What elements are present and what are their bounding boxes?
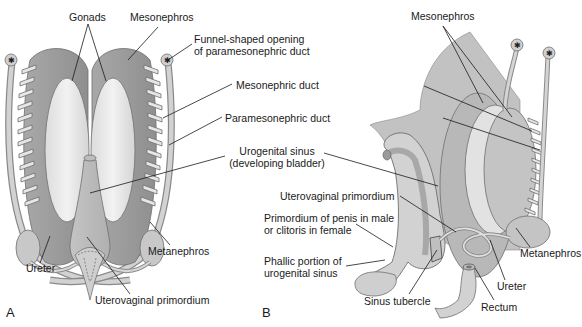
panel-label-b: B (262, 305, 271, 320)
funnel-opening-b2: ✱ (543, 47, 555, 59)
label-phallic-line2: urogenital sinus (264, 267, 338, 279)
svg-text:✱: ✱ (164, 56, 171, 65)
label-penis-primordium-line2: or clitoris in female (264, 224, 352, 236)
label-uterovaginal-a: Uterovaginal primordium (95, 294, 209, 306)
panel-label-a: A (6, 305, 15, 320)
metanephros-b (506, 216, 550, 248)
svg-text:✱: ✱ (514, 41, 521, 50)
label-sinus-tubercle: Sinus tubercle (364, 295, 431, 307)
funnel-opening-left: ✱ (5, 54, 17, 66)
funnel-opening-right: ✱ (161, 54, 173, 66)
label-funnel-line2: of paramesonephric duct (194, 45, 310, 57)
label-metanephros-a: Metanephros (148, 245, 209, 257)
label-metanephros-b: Metanephros (520, 247, 581, 259)
label-urogenital-sinus-line2: (developing bladder) (228, 157, 326, 169)
label-ureter-a: Ureter (26, 262, 55, 274)
metanephros-left (16, 230, 40, 266)
label-rectum: Rectum (481, 301, 517, 313)
label-funnel-line1: Funnel-shaped opening (194, 33, 304, 45)
label-mesonephros-b: Mesonephros (411, 10, 475, 22)
label-mesonephric-duct: Mesonephric duct (236, 79, 319, 91)
rectum (435, 264, 476, 318)
svg-text:✱: ✱ (8, 56, 15, 65)
label-penis-primordium-line1: Primordium of penis in male (264, 212, 394, 224)
label-paramesonephric-duct: Paramesonephric duct (225, 112, 330, 124)
label-phallic-line1: Phallic portion of (264, 255, 342, 267)
label-urogenital-sinus-line1: Urogenital sinus (228, 145, 326, 157)
funnel-opening-b1: ✱ (511, 39, 523, 51)
label-mesonephros-a: Mesonephros (130, 11, 194, 23)
panel-b-illustration: ✱ ✱ (355, 32, 555, 318)
svg-text:✱: ✱ (546, 49, 553, 58)
label-uterovaginal-b: Uterovaginal primordium (280, 190, 394, 202)
label-ureter-b: Ureter (497, 280, 526, 292)
label-gonads: Gonads (69, 11, 106, 23)
